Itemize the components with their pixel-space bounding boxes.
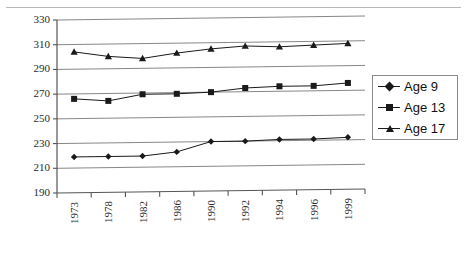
x-axis-tick-label: 1978 [102,201,114,223]
x-axis-tick-label: 1973 [68,202,80,224]
legend-label-age-17: Age 17 [404,122,445,136]
data-point-marker [208,89,214,95]
y-axis-tick-label: 270 [16,87,50,99]
legend-label-age-13: Age 13 [404,101,445,115]
legend-item-age-17: Age 17 [378,119,445,139]
legend-marker-square-icon [378,101,400,115]
data-point-marker [276,83,282,89]
data-point-marker [71,154,77,160]
y-axis-tick-label: 330 [16,13,50,25]
chart-container: 330310290270250230210190 197319781982198… [0,0,467,256]
y-axis-tick-label: 210 [16,161,50,173]
chart-legend: Age 9 Age 13 Age 17 [372,75,458,140]
legend-item-age-9: Age 9 [378,77,438,97]
x-axis-tick-label: 1986 [171,200,183,222]
data-point-marker [242,85,248,91]
x-axis-tick-label: 1994 [273,199,285,221]
data-point-marker [276,136,282,142]
x-axis-tick-label: 1999 [342,198,354,220]
y-axis-tick-label: 250 [16,112,50,124]
data-point-marker [105,153,111,159]
data-series [71,40,352,160]
legend-item-age-13: Age 13 [378,98,445,118]
x-axis-tick-label: 1996 [308,199,320,221]
x-axis-tick-label: 1992 [239,200,251,222]
y-axis-tick-label: 230 [16,137,50,149]
data-point-marker [71,96,77,102]
data-point-marker [345,80,351,86]
y-axis-tick-label: 290 [16,62,50,74]
y-axis-tick-label: 190 [16,186,50,198]
data-point-marker [174,149,180,155]
data-point-marker [311,83,317,89]
legend-marker-diamond-icon [378,80,400,94]
data-point-marker [139,153,145,159]
data-point-marker [174,91,180,97]
data-point-marker [310,136,316,142]
data-point-marker [71,48,78,54]
data-point-marker [242,138,248,144]
data-point-marker [105,98,111,104]
y-axis-tick-label: 310 [16,38,50,50]
x-axis-tick-label: 1982 [137,201,149,223]
x-axis-tick-label: 1990 [205,200,217,222]
data-point-marker [208,138,214,144]
legend-label-age-9: Age 9 [404,80,438,94]
x-axis-ticks [57,189,365,198]
legend-marker-triangle-icon [378,122,400,136]
data-point-marker [140,91,146,97]
